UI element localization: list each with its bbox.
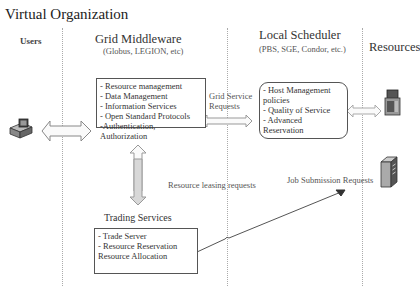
local-scheduler-box: - Host Management policies - Quality of … xyxy=(259,82,348,139)
trading-services-title: Trading Services xyxy=(104,212,172,223)
grid-service-requests-label-line2: Requests xyxy=(209,101,240,111)
trading-item: - Resource Reservation xyxy=(98,241,194,251)
trading-services-box: - Trade Server - Resource Reservation Re… xyxy=(94,228,198,274)
middleware-item: - Information Services xyxy=(100,101,202,111)
job-submission-connector xyxy=(197,190,345,252)
scheduler-item: - Advanced Reservation xyxy=(263,115,344,135)
middleware-scheduler-double-arrow xyxy=(201,115,252,127)
connectors-layer xyxy=(0,0,420,288)
middleware-item: - Resource management xyxy=(100,81,202,91)
scheduler-item: policies xyxy=(263,95,344,105)
grid-service-requests-label-line1: Grid Service xyxy=(209,91,252,101)
scheduler-item: - Quality of Service xyxy=(263,105,344,115)
middleware-trading-vertical-arrow xyxy=(130,145,146,205)
server-tower-icon xyxy=(379,156,399,192)
user-workstation-icon xyxy=(8,118,34,144)
resource-leasing-requests-label: Resource leasing requests xyxy=(168,180,256,190)
scheduler-item: - Host Management xyxy=(263,85,344,95)
trading-item: - Trade Server xyxy=(98,231,194,241)
middleware-item: - Open Standard Protocols xyxy=(100,111,202,121)
resource-server-icon xyxy=(384,89,402,121)
users-middleware-double-arrow xyxy=(42,121,91,141)
middleware-item: - Data Management xyxy=(100,91,202,101)
trading-item: Resource Allocation xyxy=(98,251,194,261)
middleware-item: -Authentication, Authorization xyxy=(100,121,202,141)
job-submission-requests-label: Job Submission Requests xyxy=(287,175,373,185)
scheduler-resources-double-arrow xyxy=(347,105,381,117)
middleware-services-box: - Resource management - Data Management … xyxy=(96,78,206,128)
